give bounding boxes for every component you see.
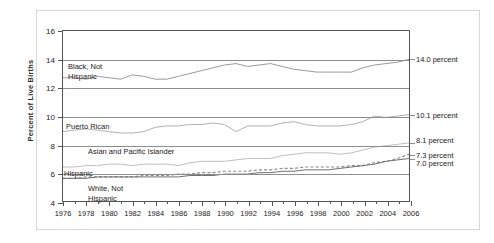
y-axis-tick-label: 6 — [51, 170, 55, 179]
y-axis-tick — [58, 60, 63, 61]
x-axis-tick — [75, 201, 76, 204]
x-axis-tick — [144, 201, 145, 204]
x-axis-tick — [411, 201, 412, 206]
x-axis-tick-label: 2004 — [379, 209, 396, 218]
x-axis-tick — [63, 201, 64, 206]
x-axis-tick — [260, 201, 261, 204]
x-axis-tick-label: 1994 — [263, 209, 280, 218]
end-value-annotation-0: 14.0 percent — [416, 54, 458, 63]
x-axis-tick-label: 1984 — [147, 209, 164, 218]
annotation-leader-1 — [410, 115, 415, 116]
x-axis-tick — [399, 201, 400, 204]
x-axis-tick-label: 1996 — [287, 209, 304, 218]
series-label-4: White, Not Hispanic — [88, 184, 123, 204]
x-axis-tick — [202, 201, 203, 206]
x-axis-tick — [341, 201, 342, 206]
x-axis-tick — [214, 201, 215, 204]
annotation-leader-0 — [410, 59, 415, 60]
y-axis-tick — [58, 174, 63, 175]
end-value-annotation-4: 7.0 percent — [416, 159, 454, 168]
gridline — [63, 117, 409, 118]
series-label-0: Black, Not Hispanic — [68, 62, 102, 82]
x-axis-tick — [353, 201, 354, 204]
series-label-2: Asian and Pacific Islander — [88, 147, 174, 157]
x-axis-tick-label: 1998 — [310, 209, 327, 218]
x-axis-tick-label: 1978 — [78, 209, 95, 218]
x-axis-tick — [179, 201, 180, 206]
y-axis-title: Percent of Live Births — [26, 41, 35, 161]
x-axis-tick — [376, 201, 377, 204]
x-axis-tick-label: 2000 — [333, 209, 350, 218]
y-axis-tick-label: 10 — [46, 113, 55, 122]
plot-inner — [63, 31, 409, 201]
x-axis-tick — [365, 201, 366, 206]
x-axis-tick-label: 1986 — [171, 209, 188, 218]
y-axis-tick-label: 12 — [46, 84, 55, 93]
annotation-leader-3 — [410, 155, 415, 156]
plot-area: 4681012141619761978198019821984198619881… — [62, 30, 410, 202]
annotation-leader-4 — [410, 159, 415, 160]
x-axis-tick — [225, 201, 226, 206]
x-axis-tick — [330, 201, 331, 204]
series-label-1: Puerto Rican — [66, 122, 109, 132]
x-axis-tick — [191, 201, 192, 204]
series-lines — [63, 31, 409, 201]
gridline — [63, 88, 409, 89]
y-axis-tick-label: 14 — [46, 55, 55, 64]
x-axis-tick — [272, 201, 273, 206]
x-axis-tick-label: 2006 — [403, 209, 420, 218]
y-axis-tick — [58, 31, 63, 32]
x-axis-tick-label: 1980 — [101, 209, 118, 218]
end-value-annotation-1: 10.1 percent — [416, 110, 458, 119]
x-axis-tick — [167, 201, 168, 204]
series-line-4 — [63, 159, 409, 179]
y-axis-tick-label: 8 — [51, 141, 55, 150]
gridline — [63, 60, 409, 61]
x-axis-tick-label: 1976 — [55, 209, 72, 218]
x-axis-tick-label: 2002 — [356, 209, 373, 218]
x-axis-tick — [388, 201, 389, 206]
x-axis-tick — [133, 201, 134, 206]
end-value-annotation-2: 8.1 percent — [416, 136, 454, 145]
x-axis-tick — [237, 201, 238, 204]
x-axis-tick-label: 1982 — [124, 209, 141, 218]
gridline — [63, 174, 409, 175]
y-axis-tick-label: 4 — [51, 199, 55, 208]
series-line-0 — [63, 59, 409, 79]
x-axis-tick — [249, 201, 250, 206]
y-axis-tick — [58, 117, 63, 118]
chart-figure: Percent of Live Births 46810121416197619… — [0, 0, 494, 243]
y-axis-tick — [58, 146, 63, 147]
y-axis-tick — [58, 88, 63, 89]
x-axis-tick — [156, 201, 157, 206]
x-axis-tick-label: 1992 — [240, 209, 257, 218]
x-axis-tick — [295, 201, 296, 206]
annotation-leader-2 — [410, 143, 415, 144]
x-axis-tick — [307, 201, 308, 204]
x-axis-tick-label: 1988 — [194, 209, 211, 218]
y-axis-tick-label: 16 — [46, 27, 55, 36]
x-axis-tick-label: 1990 — [217, 209, 234, 218]
x-axis-tick — [318, 201, 319, 206]
series-label-3: Hispanic — [64, 169, 93, 179]
x-axis-tick — [283, 201, 284, 204]
